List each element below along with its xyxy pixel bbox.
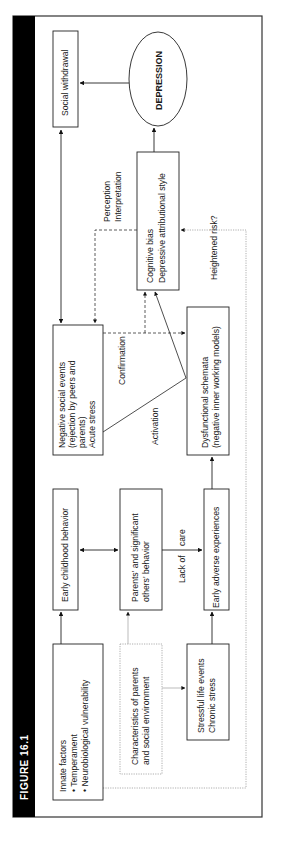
care-label: care [177,529,187,546]
cognitive-bias-line2: Depressive attributional style [157,173,167,283]
parents-line1: Parents' and significant [130,513,140,602]
negative-events-line3: parents) [77,416,87,448]
node-social-withdrawal: Social withdrawal [53,31,78,127]
cognitive-bias-line1: Cognitive bias [145,229,155,283]
figure-diagram: FIGURE 16.1 Social withdrawal DEPRESSION… [0,0,281,845]
depression-label: DEPRESSION [154,51,164,110]
node-stressful-life-events: Stressful life events Chronic stress [187,644,229,740]
characteristics-line2: and social environment [141,676,151,765]
node-cognitive-bias: Cognitive bias Depressive attributional … [137,152,179,290]
negative-events-line2: (rejection by peers and [67,360,77,448]
node-parents-behavior: Parents' and significant others' behavio… [120,489,162,610]
stressful-line2: Chronic stress [207,678,217,733]
social-withdrawal-label: Social withdrawal [60,50,70,116]
node-dysfunctional-schemata: Dysfunctional schemata (negative inner w… [187,307,229,455]
innate-line3: • Neurobiological vulnerability [80,679,90,792]
title-bar [13,16,35,817]
heightened-risk-label: Heightened risk? [209,215,219,280]
innate-line2: • Temperament [69,734,79,792]
innate-line1: Innate factors [58,740,68,792]
parents-line2: others' behavior [141,541,151,602]
perception-label: Perception [102,181,112,222]
confirmation-label: Confirmation [117,336,127,385]
schemata-line2: (negative inner working models) [211,326,221,448]
node-early-childhood-behavior: Early childhood behavior [53,489,78,610]
node-characteristics-parents: Characteristics of parents and social en… [120,644,162,774]
figure-title: FIGURE 16.1 [19,734,30,800]
characteristics-line1: Characteristics of parents [130,668,140,765]
interpretation-label: Interpretation [113,171,123,222]
early-adverse-label: Early adverse experiences [211,507,221,608]
node-early-adverse-experiences: Early adverse experiences [204,489,229,610]
node-depression: DEPRESSION [129,32,187,126]
schemata-line1: Dysfunctional schemata [200,357,210,448]
negative-events-line1: Negative social events [57,362,67,448]
stressful-line1: Stressful life events [196,658,206,733]
early-childhood-label: Early childhood behavior [60,508,70,602]
node-innate-factors: Innate factors • Temperament • Neurobiol… [53,644,103,800]
negative-events-line4: Acute stress [87,401,97,448]
activation-label: Activation [150,408,160,445]
lack-of-label: Lack of [177,555,187,583]
node-negative-social-events: Negative social events (rejection by pee… [53,325,103,455]
